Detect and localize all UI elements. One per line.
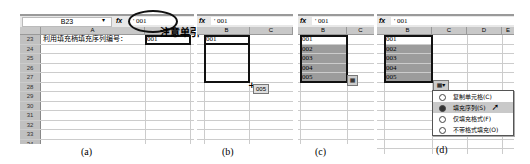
fx-icon[interactable]: fx [199,16,205,26]
column-header-b[interactable]: B [300,27,347,34]
column-headers: B C [298,27,374,35]
column-headers: B C D E [377,27,514,35]
fx-icon[interactable]: fx [379,16,385,26]
column-header-b[interactable]: B [384,27,432,34]
column-header-c[interactable]: C [250,27,293,34]
menu-item-fill-series[interactable]: 填充序列(S)➚ [433,102,513,113]
column-header-b[interactable]: B [204,27,250,34]
menu-item-fill-without-formatting[interactable]: 不带格式填充(O) [433,124,513,135]
column-header-d[interactable]: D [467,27,502,34]
row-header[interactable]: 33 [20,130,41,139]
column-header-e[interactable]: E [502,27,514,34]
formula-input[interactable]: ' 001 [312,17,374,25]
menu-item-copy-cells[interactable]: 复制单元格(C) [433,91,513,102]
filled-range [300,35,348,83]
active-cell [204,35,250,45]
column-headers: B C [197,27,293,35]
caption-b: (b) [222,146,234,157]
menu-item-fill-formatting-only[interactable]: 仅填充格式(F) [433,113,513,124]
row-header[interactable]: 25 [20,54,41,63]
name-box-dropdown-icon[interactable]: ▾ [102,16,105,23]
mouse-pointer-icon: ➚ [491,102,499,113]
drag-tooltip: 005 [253,84,269,94]
formula-bar: fx ' 001 [197,14,293,28]
caption-a: (a) [81,146,92,157]
row-header[interactable]: 30 [20,102,41,111]
formula-bar: fx ' 001 [377,14,514,28]
row-header[interactable]: 29 [20,92,41,101]
cell-a23[interactable]: 利用填充柄填充序列编号： [42,35,127,44]
autofill-options-menu: 复制单元格(C) 填充序列(S)➚ 仅填充格式(F) 不带格式填充(O) [432,90,514,136]
sheet-grid[interactable]: 001 002 003 004 005 [298,35,374,144]
autofill-options-button[interactable]: ▦ [347,75,358,86]
formula-input[interactable]: ' 001 [391,17,514,25]
column-header-c[interactable]: C [347,27,374,34]
row-header[interactable]: 26 [20,64,41,73]
row-header[interactable]: 28 [20,83,41,92]
radio-selected-icon [439,105,446,112]
column-header-a[interactable]: A [41,27,145,34]
radio-icon [439,94,446,101]
formula-bar: fx ' 001 [298,14,374,28]
select-all-corner[interactable] [20,27,41,34]
fx-icon[interactable]: fx [300,16,306,26]
name-box[interactable]: B23 [22,17,112,27]
row-header[interactable]: 27 [20,73,41,82]
row-header[interactable]: 32 [20,121,41,130]
panel-b: fx ' 001 B C 001 [197,14,293,144]
panel-c: fx ' 001 B C 001 002 003 004 005 [298,14,374,144]
caption-d: (d) [436,144,448,155]
row-header[interactable]: 23 [20,35,41,44]
row-header[interactable]: 24 [20,45,41,54]
filled-range [384,35,433,83]
fx-icon[interactable]: fx [116,16,122,26]
sheet-grid[interactable]: 001 [197,35,293,144]
caption-c: (c) [315,146,326,157]
row-header[interactable]: 34 [20,140,41,145]
sheet-grid[interactable]: 23利用填充柄填充序列编号：001 24 25 26 27 28 29 30 3… [20,35,194,144]
radio-icon [439,116,446,123]
row-header[interactable]: 31 [20,111,41,120]
radio-icon [439,127,446,134]
formula-input[interactable]: ' 001 [211,17,293,25]
column-header-c[interactable]: C [432,27,467,34]
